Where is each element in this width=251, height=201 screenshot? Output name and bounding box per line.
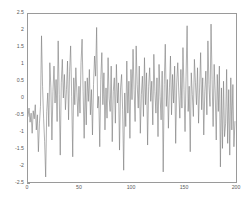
figure-container: 2.5 2 1.5 1 0.5 0 -0.5 -1 -1.5 -2 -2.5 0… [0,0,251,201]
xtick-label-2: 100 [119,185,143,190]
ytick-label-1: 2 [0,27,24,32]
series-line-chart [28,14,236,182]
ytick-label-6: -0.5 [0,112,24,117]
xtick-label-4: 200 [224,185,248,190]
ytick-label-3: 1 [0,61,24,66]
ytick-label-7: -1 [0,129,24,134]
plot-area [27,13,237,183]
xtick-label-0: 0 [15,185,39,190]
ytick-label-9: -2 [0,163,24,168]
xtick-label-3: 150 [172,185,196,190]
ytick-label-2: 1.5 [0,44,24,49]
ytick-label-0: 2.5 [0,10,24,15]
ytick-label-5: 0 [0,95,24,100]
xtick-label-1: 50 [67,185,91,190]
ytick-label-4: 0.5 [0,78,24,83]
ytick-label-8: -1.5 [0,146,24,151]
series-polyline [28,24,235,177]
